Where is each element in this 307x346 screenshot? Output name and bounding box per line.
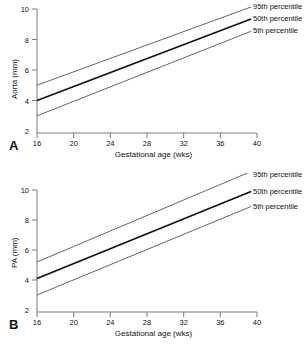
panel-b-series [37,173,251,295]
panel-b-pulmonary-artery: PA (mm) 10 8 6 4 2 16 20 24 28 32 36 40 … [0,173,307,346]
series-line-5th [37,207,251,296]
panel-a-x-tick-16: 16 [27,139,47,148]
panel-a-series-label-5th: 5th percentile [253,26,298,35]
panel-b-y-tick-4: 4 [13,276,29,285]
y-axis-ticks [32,9,37,101]
panel-b-x-tick-28: 28 [137,318,157,327]
series-line-95th [37,173,251,262]
panel-b-x-tick-40: 40 [247,318,267,327]
panel-a-x-tick-40: 40 [247,139,267,148]
panel-a-aorta: Aorta (mm) 10 8 6 4 2 16 20 24 28 32 36 … [0,0,307,173]
panel-a-series-label-95th: 95th percentile [253,2,302,11]
panel-a-y-tick-2: 2 [13,127,29,136]
figure-aorta-pa-growth-curves: Aorta (mm) 10 8 6 4 2 16 20 24 28 32 36 … [0,0,307,346]
panel-a-letter: A [9,138,19,153]
panel-a-x-tick-32: 32 [174,139,194,148]
panel-a-x-tick-28: 28 [137,139,157,148]
panel-a-y-axis-title: Aorta (mm) [10,59,19,99]
panel-b-x-tick-20: 20 [64,318,84,327]
x-axis-ticks [37,133,257,138]
panel-b-series-label-5th: 5th percentile [253,202,298,211]
panel-b-y-tick-6: 6 [13,246,29,255]
panel-b-y-tick-10: 10 [13,186,29,195]
panel-b-series-label-95th: 95th percentile [253,170,302,179]
y-axis-ticks [32,190,37,280]
panel-b-x-tick-32: 32 [174,318,194,327]
x-axis-ticks [37,312,257,317]
panel-b-y-tick-2: 2 [13,306,29,315]
panel-b-axes [32,190,257,317]
panel-a-x-tick-36: 36 [210,139,230,148]
panel-a-series [37,7,251,116]
panel-a-y-tick-6: 6 [13,66,29,75]
panel-b-x-axis-title: Gestational age (wks) [0,329,307,338]
series-line-50th [37,19,251,101]
panel-a-series-label-50th: 50th percentile [253,14,302,23]
panel-a-y-tick-4: 4 [13,97,29,106]
panel-a-x-tick-24: 24 [100,139,120,148]
panel-a-y-tick-10: 10 [13,5,29,14]
panel-a-y-tick-8: 8 [13,36,29,45]
panel-b-series-label-50th: 50th percentile [253,187,302,196]
panel-b-y-tick-8: 8 [13,216,29,225]
panel-b-x-tick-36: 36 [210,318,230,327]
panel-b-letter: B [9,317,19,332]
panel-a-x-tick-20: 20 [64,139,84,148]
panel-b-x-tick-16: 16 [27,318,47,327]
series-line-50th [37,192,251,279]
panel-b-x-tick-24: 24 [100,318,120,327]
panel-a-x-axis-title: Gestational age (wks) [0,150,307,159]
